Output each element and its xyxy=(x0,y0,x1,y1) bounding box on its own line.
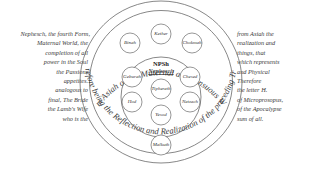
node-geburah: Geburah xyxy=(122,67,142,87)
node-yesod: Yesod xyxy=(151,105,171,125)
node-tiphereth: Tiphereth xyxy=(151,79,171,99)
svg-text:Hod: Hod xyxy=(127,99,137,104)
svg-text:Yesod: Yesod xyxy=(155,112,167,117)
node-malkuth: Malkuth xyxy=(151,135,171,155)
node-chokmah: Chokmah xyxy=(182,33,202,53)
node-chesed: Chesed xyxy=(180,67,200,87)
node-netzach: Netzach xyxy=(180,92,200,112)
outer-ring-bottom-text: Therefore being the Reflection and Reali… xyxy=(0,0,238,136)
svg-text:Tiphereth: Tiphereth xyxy=(152,86,171,91)
svg-text:Kether: Kether xyxy=(153,31,168,36)
node-hod: Hod xyxy=(122,92,142,112)
svg-text:Binah: Binah xyxy=(124,40,136,45)
center-title: NPSh xyxy=(153,60,169,67)
outer-ring-top-text: From Asiah or the Maternal and Sensuous … xyxy=(0,0,229,108)
node-binah: Binah xyxy=(120,33,140,53)
node-kether: Kether xyxy=(151,24,171,44)
svg-text:Chokmah: Chokmah xyxy=(182,40,202,45)
center-subtitle: Nephesch xyxy=(147,67,173,74)
sephiroth-diagram: From Asiah or the Maternal and Sensuous … xyxy=(0,0,314,190)
svg-text:Chesed: Chesed xyxy=(183,74,198,79)
svg-text:Geburah: Geburah xyxy=(123,74,141,79)
svg-text:Netzach: Netzach xyxy=(181,99,199,104)
svg-text:Malkuth: Malkuth xyxy=(152,142,170,147)
